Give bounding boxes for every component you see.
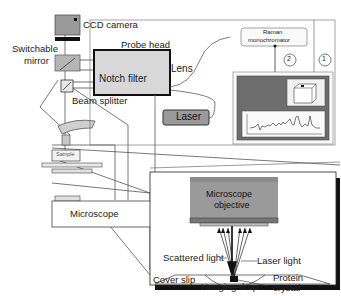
label-hanging-drop: Hanging drop [201,282,258,292]
marker-2-label: 2 [287,55,291,62]
label-laser-light: Laser light [257,256,301,266]
label-notch-filter: Notch filter [99,74,147,84]
label-switchable: Switchable [12,44,58,54]
label-laser: Laser [176,112,201,122]
label-objective-1: Microscope [206,190,252,199]
label-ccd-camera: CCD camera [83,20,138,30]
label-raman: Raman [263,29,282,35]
marker-1-label: 1 [322,55,326,62]
label-cover-slip: Cover slip [153,275,195,285]
label-scattered-light: Scattered light [163,253,224,263]
label-sample: Sample [56,152,75,158]
label-crystal: crystal [273,283,300,293]
label-microscope: Microscope [70,209,119,219]
label-objective-2: objective [214,201,250,210]
switchable-mirror-box [55,55,80,71]
label-monochromator: monochromator [248,37,290,43]
spectrum-plot [242,111,325,137]
label-probe-head: Probe head [121,40,170,50]
label-beam-splitter: Beam splitter [72,96,127,106]
label-mirror: mirror [24,56,49,66]
small-objective-icon [58,120,95,134]
label-lens: Lens [171,64,193,74]
